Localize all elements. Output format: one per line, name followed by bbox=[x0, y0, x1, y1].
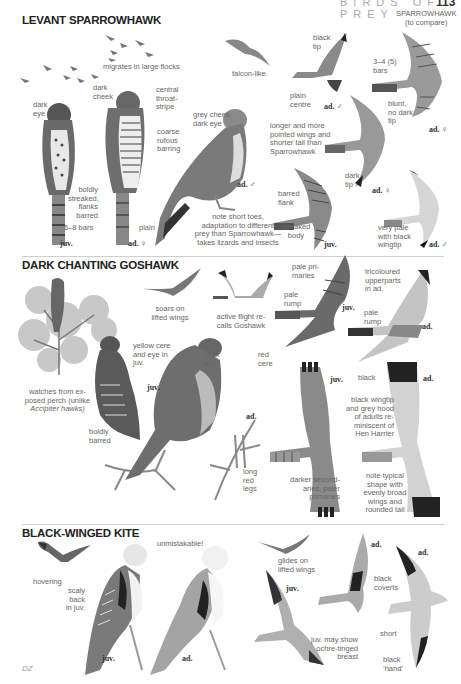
tag-adult-female: ad. ♀ bbox=[128, 239, 146, 248]
label-note-typical-shape: note typicalshape withevenly broadwings … bbox=[355, 472, 415, 515]
label-grey-cheek: grey cheek,dark eye bbox=[193, 111, 232, 128]
label-barred-flank: barredflank bbox=[278, 190, 300, 207]
label-ochre-breast: juv. may showochre-tingedbreast bbox=[310, 636, 358, 662]
tag-flight-underside-adult: ad. bbox=[423, 374, 433, 383]
label-tricoloured: tricolouredupperpartsin ad. bbox=[365, 268, 401, 294]
label-short: short bbox=[380, 630, 397, 639]
tag-adult-male: ad. ♂ bbox=[237, 180, 255, 189]
label-black-wingtip-hood: black wingtipand grey hoodof adults re-m… bbox=[326, 396, 394, 439]
active-flight-illustration bbox=[213, 268, 273, 308]
label-pale-primaries: pale pri-maries bbox=[292, 263, 319, 280]
label-boldly-streaked: boldlystreaked,flanksbarred bbox=[68, 186, 98, 220]
tag-flight-juvenile: juv. bbox=[324, 240, 337, 249]
label-falcon-like: falcon-like bbox=[232, 70, 266, 79]
label-soars: soars onlifted wings bbox=[150, 305, 190, 322]
tag-flight-kite-juvenile: juv. bbox=[286, 584, 299, 593]
label-long-red-legs: longredlegs bbox=[243, 468, 257, 494]
tag-perched-adult: ad. bbox=[246, 412, 256, 421]
label-boldly-barred: boldlybarred bbox=[89, 428, 111, 445]
section-title-levant-sparrowhawk: LEVANT SPARROWHAWK bbox=[22, 14, 161, 26]
tag-juvenile: juv. bbox=[60, 239, 73, 248]
label-scaly-back: scalybackin juv. bbox=[60, 587, 85, 613]
label-hovering: hovering bbox=[33, 578, 62, 587]
label-very-pale: very palewith blackwingtip bbox=[378, 224, 411, 250]
label-plain-centre: plaincentre bbox=[290, 92, 311, 109]
label-dark-eye: darkeye bbox=[33, 101, 48, 118]
label-black-tip: blacktip bbox=[313, 34, 331, 51]
tag-compare-female: ad. ♀ bbox=[429, 125, 447, 134]
flight-juvenile-illustration bbox=[274, 168, 349, 253]
label-6-8-bars: 6–8 bars bbox=[64, 224, 93, 233]
folio: DZ bbox=[22, 664, 33, 673]
label-black-hand: black‘hand’ bbox=[383, 656, 403, 673]
label-dark-eye-goshawk: darkeye bbox=[205, 351, 220, 368]
label-dark-cheek: darkcheek bbox=[93, 84, 113, 101]
tag-flight-kite-adult-2: ad. bbox=[418, 548, 428, 557]
tag-perched-juvenile: juv. bbox=[147, 383, 160, 392]
flock-illustration bbox=[15, 30, 185, 85]
tag-flight-pale-male: ad. ♂ bbox=[429, 240, 447, 249]
label-pale-rump-ad: palerump bbox=[364, 309, 381, 326]
label-longer-wings: longer and morepointed wings andshorter … bbox=[270, 122, 330, 156]
flight-kite-adult-underside-illustration bbox=[386, 546, 451, 671]
label-pale-rump-juv: palerump bbox=[284, 291, 301, 308]
tag-perched-kite-adult: ad. bbox=[182, 654, 192, 663]
tag-flight-underside-juvenile: juv. bbox=[330, 375, 343, 384]
label-flocks: migrates in large flocks bbox=[103, 63, 180, 72]
soaring-illustration bbox=[133, 268, 203, 298]
falcon-like-illustration bbox=[225, 36, 275, 71]
tag-flight-upper-adult: ad. bbox=[422, 322, 432, 331]
section-divider bbox=[22, 524, 444, 525]
label-watches-perch: watches from ex-posed perch (unlikeAccip… bbox=[20, 388, 95, 414]
label-sparrowhawk-compare: SPARROWHAWK(to compare) bbox=[396, 10, 456, 27]
label-plain: plain bbox=[139, 224, 155, 233]
page-number: 113 bbox=[436, 0, 455, 9]
label-yellow-cere: yellow cereand eye injuv. bbox=[133, 342, 171, 368]
tag-perched-kite-juvenile: juv. bbox=[102, 654, 115, 663]
section-divider bbox=[22, 256, 444, 257]
label-black: black bbox=[358, 374, 376, 383]
section-title-black-winged-kite: BLACK-WINGED KITE bbox=[22, 527, 139, 539]
label-3-4-bars: 3–4 (5)bars bbox=[373, 58, 397, 75]
label-streaked-body: streakedbody bbox=[276, 223, 316, 240]
label-active-flight: active flight re-calls Goshawk bbox=[211, 313, 271, 330]
label-darker-secondaries: darker second-aries, palerprimaries bbox=[280, 476, 340, 502]
tag-flight-kite-adult-1: ad. bbox=[371, 540, 381, 549]
flight-kite-adult-upperside-illustration bbox=[318, 533, 378, 618]
